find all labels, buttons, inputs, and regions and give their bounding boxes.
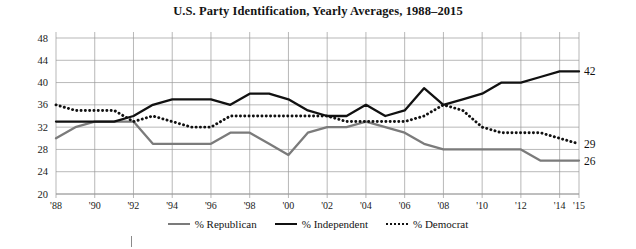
x-tick-label: '06: [399, 200, 411, 211]
x-tick-label: '90: [89, 200, 101, 211]
legend-item-independent[interactable]: % Independent: [275, 218, 368, 230]
y-tick-label: 24: [38, 166, 49, 177]
x-tick-label: '12: [515, 200, 527, 211]
legend-swatch-icon: [386, 223, 408, 225]
chart-container: U.S. Party Identification, Yearly Averag…: [0, 0, 636, 249]
page-tick-mark: [131, 236, 132, 247]
x-tick-label: '96: [205, 200, 217, 211]
y-tick-label: 48: [38, 33, 49, 44]
x-tick-label: '10: [476, 200, 488, 211]
x-tick-labels: '88'90'92'94'96'98'00'02'04'06'08'10'12'…: [50, 200, 585, 211]
y-tick-label: 20: [38, 189, 49, 200]
y-tick-label: 28: [38, 144, 49, 155]
x-tick-label: '98: [244, 200, 256, 211]
end-label-republican: 26: [584, 155, 596, 167]
x-tick-label: '00: [283, 200, 295, 211]
x-tick-label: '14: [554, 200, 566, 211]
legend-item-democrat[interactable]: % Democrat: [386, 218, 468, 230]
legend-label: % Republican: [195, 218, 257, 230]
legend-swatch-icon: [168, 223, 190, 225]
legend-swatch-icon: [275, 223, 297, 225]
series-line-independent: [56, 71, 579, 121]
legend-item-republican[interactable]: % Republican: [168, 218, 257, 230]
x-tick-label: '04: [360, 200, 372, 211]
x-tick-label: '92: [128, 200, 140, 211]
line-chart-svg: 2024283236404448 '88'90'92'94'96'98'00'0…: [0, 0, 636, 249]
y-tick-label: 40: [38, 77, 49, 88]
legend-label: % Independent: [302, 218, 368, 230]
y-tick-label: 32: [38, 122, 49, 133]
x-tick-label: '94: [166, 200, 178, 211]
end-label-independent: 42: [584, 65, 596, 77]
plot-area: 2024283236404448 '88'90'92'94'96'98'00'0…: [0, 0, 636, 249]
chart-legend: % Republican% Independent% Democrat: [0, 218, 636, 230]
x-tick-label: '08: [438, 200, 450, 211]
x-tick-label: '88: [50, 200, 62, 211]
y-tick-labels: 2024283236404448: [38, 33, 49, 200]
end-label-democrat: 29: [584, 138, 596, 150]
series-end-labels: 264229: [584, 65, 596, 166]
data-series-group: [56, 71, 579, 160]
x-tick-label: '02: [321, 200, 333, 211]
y-tick-label: 44: [38, 55, 49, 66]
legend-label: % Democrat: [413, 218, 468, 230]
y-tick-label: 36: [38, 99, 49, 110]
x-tick-label: '15: [573, 200, 585, 211]
